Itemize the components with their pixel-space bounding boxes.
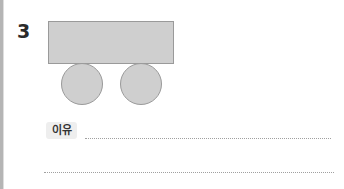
- answer-line-2[interactable]: [44, 172, 334, 173]
- cart-body-rectangle: [48, 21, 174, 64]
- cart-wheel-left-circle: [61, 63, 103, 105]
- cart-wheel-right-circle: [120, 63, 162, 105]
- question-number: 3: [17, 20, 30, 42]
- reason-label-badge: 이유: [46, 122, 77, 139]
- page-edge-shadow: [3, 0, 4, 189]
- answer-line-1[interactable]: [85, 138, 331, 139]
